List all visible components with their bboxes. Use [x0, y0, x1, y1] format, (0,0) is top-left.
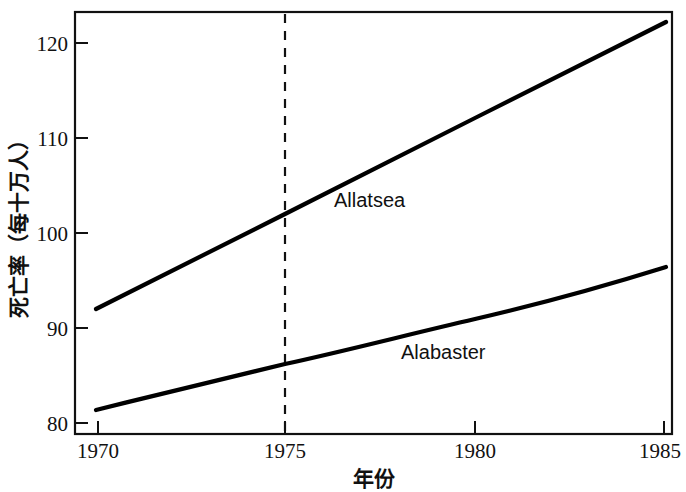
y-tick-label-100: 100 — [37, 222, 69, 246]
x-axis-ticks — [98, 421, 664, 434]
y-tick-label-80: 80 — [47, 412, 68, 436]
x-axis-title: 年份 — [353, 467, 396, 491]
y-axis-ticks — [75, 43, 88, 423]
x-tick-label-1980: 1980 — [454, 439, 496, 463]
y-tick-label-120: 120 — [37, 32, 69, 56]
y-axis-tick-labels: 80 90 100 110 120 — [37, 32, 69, 436]
plot-frame — [75, 12, 672, 434]
y-tick-label-110: 110 — [37, 127, 68, 151]
y-tick-label-90: 90 — [47, 317, 68, 341]
series-line-allatsea — [96, 22, 666, 309]
x-tick-label-1975: 1975 — [264, 439, 306, 463]
chart-figure: 80 90 100 110 120 1970 1975 1980 1985 Al… — [0, 0, 686, 492]
x-tick-label-1985: 1985 — [639, 439, 681, 463]
series-line-alabaster — [96, 267, 666, 410]
series-label-allatsea: Allatsea — [334, 189, 406, 211]
line-chart: 80 90 100 110 120 1970 1975 1980 1985 Al… — [0, 0, 686, 492]
y-axis-title: 死亡率（每十万人） — [7, 129, 31, 318]
x-axis-tick-labels: 1970 1975 1980 1985 — [77, 439, 681, 463]
x-tick-label-1970: 1970 — [77, 439, 119, 463]
series-label-alabaster: Alabaster — [401, 341, 486, 363]
